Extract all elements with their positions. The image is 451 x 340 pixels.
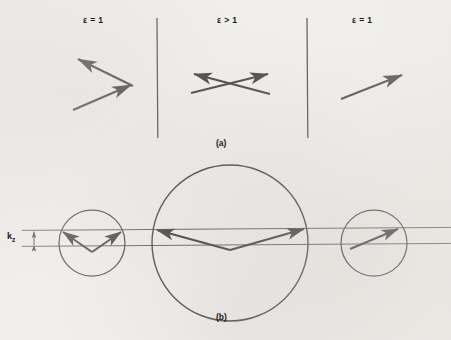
interface-line-1 — [157, 18, 158, 138]
panel-a-caption: (a) — [216, 139, 226, 148]
epsilon-label-left: ε = 1 — [83, 16, 103, 25]
k-vector-middle-left — [157, 230, 230, 250]
kz-axis-label: kz — [7, 232, 15, 243]
panel-a-group — [73, 18, 402, 138]
kz-label-subscript: z — [12, 236, 15, 243]
ray-arrow-incident-left — [73, 85, 131, 110]
ray-arrow-exit-right — [341, 75, 402, 99]
k-vector-middle-right — [230, 229, 304, 250]
kz-line-lower — [22, 243, 451, 246]
k-vector-left-incident — [63, 232, 92, 252]
kz-line-upper — [22, 227, 451, 230]
epsilon-label-middle: ε > 1 — [217, 16, 237, 25]
ray-arrow-outgoing-left — [78, 59, 133, 86]
k-circle-right — [341, 210, 407, 276]
figure-canvas — [0, 0, 451, 340]
k-circle-middle — [152, 165, 308, 321]
panel-b-group — [22, 165, 451, 321]
interface-line-2 — [307, 18, 308, 138]
k-circle-left — [59, 210, 125, 276]
panel-b-caption: (b) — [216, 313, 227, 322]
k-vector-left-reflected — [92, 232, 121, 252]
epsilon-label-right: ε = 1 — [352, 16, 372, 25]
k-vector-right — [350, 229, 398, 249]
figure-container: ε = 1 ε > 1 ε = 1 (a) kz (b) — [0, 0, 451, 340]
